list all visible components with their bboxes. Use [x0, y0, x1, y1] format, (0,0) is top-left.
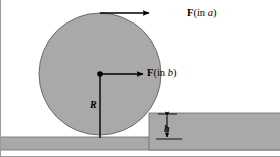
force-a-label: F(in a) [187, 8, 216, 19]
height-label: h [164, 124, 170, 134]
figure-canvas [1, 0, 280, 157]
physics-figure-wheel-step: F(in a) F(in b) R h [0, 0, 280, 157]
force-a-qualifier-open: (in [193, 7, 207, 18]
force-b-qualifier-open: (in [153, 67, 167, 78]
force-b-label: F(in b) [147, 68, 176, 79]
radius-label: R [90, 100, 97, 110]
force-a-qualifier-close: ) [213, 7, 217, 18]
force-b-qualifier-close: ) [173, 67, 177, 78]
